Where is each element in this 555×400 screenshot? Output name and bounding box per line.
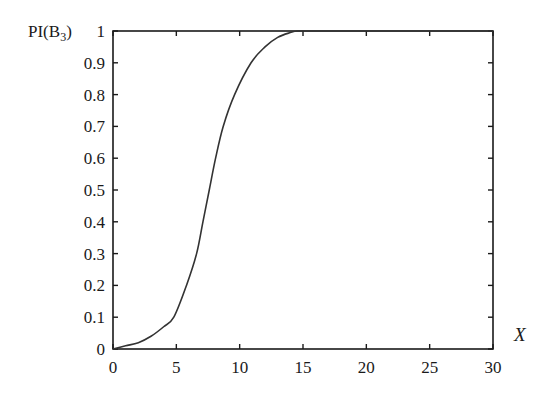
y-tick-label: 0.2 <box>84 276 105 295</box>
x-tick-label: 5 <box>172 358 181 377</box>
plot-area <box>113 31 493 349</box>
y-tick-label: 0.8 <box>84 86 105 105</box>
x-tick-label: 20 <box>358 358 375 377</box>
y-tick-label: 0.7 <box>84 117 106 136</box>
y-tick-label: 0.6 <box>84 149 105 168</box>
y-tick-label: 0.3 <box>84 245 105 264</box>
y-axis-label: PI(B3) <box>28 22 72 44</box>
y-tick-label: 0.4 <box>84 213 106 232</box>
y-tick-label: 0 <box>97 340 106 359</box>
axis-ticks <box>113 31 493 349</box>
y-tick-label: 1 <box>97 22 106 41</box>
x-tick-label: 0 <box>109 358 118 377</box>
tick-labels: 05101520253000.10.20.30.40.50.60.70.80.9… <box>84 22 502 377</box>
chart: 05101520253000.10.20.30.40.50.60.70.80.9… <box>0 0 555 400</box>
y-tick-label: 0.9 <box>84 54 105 73</box>
x-tick-label: 10 <box>231 358 248 377</box>
y-tick-label: 0.1 <box>84 308 105 327</box>
data-line <box>113 31 493 349</box>
x-axis-label: X <box>513 324 527 345</box>
y-tick-label: 0.5 <box>84 181 105 200</box>
x-tick-label: 15 <box>295 358 312 377</box>
x-tick-label: 25 <box>421 358 438 377</box>
x-tick-label: 30 <box>485 358 502 377</box>
